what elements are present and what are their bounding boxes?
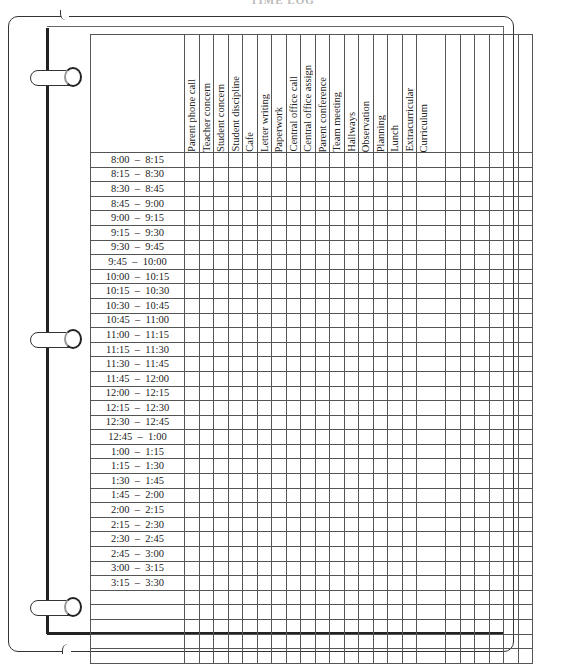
log-cell[interactable] [344,605,359,620]
log-cell[interactable] [460,649,475,664]
log-cell[interactable] [504,313,519,328]
log-cell[interactable] [272,430,287,445]
log-cell[interactable] [504,444,519,459]
log-cell[interactable] [199,298,214,313]
log-cell[interactable] [199,488,214,503]
log-cell[interactable] [344,211,359,226]
log-cell[interactable] [518,488,533,503]
log-cell[interactable] [460,371,475,386]
log-cell[interactable] [518,415,533,430]
log-cell[interactable] [301,444,316,459]
log-cell[interactable] [359,269,374,284]
log-cell[interactable] [373,298,388,313]
log-cell[interactable] [185,284,200,299]
log-cell[interactable] [489,547,504,562]
log-cell[interactable] [257,153,272,168]
log-cell[interactable] [373,474,388,489]
log-cell[interactable] [446,182,461,197]
log-cell[interactable] [446,576,461,591]
log-cell[interactable] [460,284,475,299]
log-cell[interactable] [489,225,504,240]
log-cell[interactable] [417,225,446,240]
log-cell[interactable] [475,211,490,226]
log-cell[interactable] [243,503,258,518]
log-cell[interactable] [257,474,272,489]
log-cell[interactable] [402,459,417,474]
log-cell[interactable] [344,182,359,197]
log-cell[interactable] [286,576,301,591]
log-cell[interactable] [286,649,301,664]
log-cell[interactable] [272,561,287,576]
log-cell[interactable] [504,386,519,401]
log-cell[interactable] [402,401,417,416]
log-cell[interactable] [185,590,200,605]
log-cell[interactable] [446,488,461,503]
log-cell[interactable] [228,196,243,211]
log-cell[interactable] [460,401,475,416]
log-cell[interactable] [373,517,388,532]
log-cell[interactable] [228,401,243,416]
log-cell[interactable] [417,255,446,270]
log-cell[interactable] [344,503,359,518]
log-cell[interactable] [402,357,417,372]
log-cell[interactable] [446,620,461,635]
log-cell[interactable] [228,182,243,197]
log-cell[interactable] [286,167,301,182]
log-cell[interactable] [359,634,374,649]
log-cell[interactable] [199,284,214,299]
log-cell[interactable] [460,503,475,518]
log-cell[interactable] [301,605,316,620]
log-cell[interactable] [388,357,403,372]
log-cell[interactable] [330,371,345,386]
log-cell[interactable] [257,430,272,445]
log-cell[interactable] [243,240,258,255]
log-cell[interactable] [402,211,417,226]
log-cell[interactable] [199,459,214,474]
log-cell[interactable] [344,298,359,313]
log-cell[interactable] [373,634,388,649]
log-cell[interactable] [272,474,287,489]
log-cell[interactable] [504,415,519,430]
log-cell[interactable] [504,342,519,357]
log-cell[interactable] [185,240,200,255]
log-cell[interactable] [460,430,475,445]
log-cell[interactable] [344,401,359,416]
log-cell[interactable] [257,503,272,518]
log-cell[interactable] [243,444,258,459]
log-cell[interactable] [272,517,287,532]
log-cell[interactable] [475,386,490,401]
log-cell[interactable] [359,196,374,211]
log-cell[interactable] [272,605,287,620]
log-cell[interactable] [359,547,374,562]
log-cell[interactable] [257,561,272,576]
log-cell[interactable] [185,167,200,182]
log-cell[interactable] [243,517,258,532]
log-cell[interactable] [373,576,388,591]
log-cell[interactable] [359,576,374,591]
log-cell[interactable] [257,620,272,635]
log-cell[interactable] [504,576,519,591]
log-cell[interactable] [504,590,519,605]
log-cell[interactable] [286,620,301,635]
log-cell[interactable] [315,371,330,386]
log-cell[interactable] [388,503,403,518]
log-cell[interactable] [475,167,490,182]
log-cell[interactable] [417,313,446,328]
log-cell[interactable] [185,547,200,562]
log-cell[interactable] [315,269,330,284]
log-cell[interactable] [243,328,258,343]
log-cell[interactable] [315,196,330,211]
log-cell[interactable] [199,182,214,197]
log-cell[interactable] [243,269,258,284]
log-cell[interactable] [214,153,229,168]
log-cell[interactable] [301,182,316,197]
log-cell[interactable] [286,225,301,240]
log-cell[interactable] [460,357,475,372]
log-cell[interactable] [272,284,287,299]
log-cell[interactable] [330,401,345,416]
log-cell[interactable] [475,488,490,503]
log-cell[interactable] [373,503,388,518]
log-cell[interactable] [417,430,446,445]
log-cell[interactable] [475,474,490,489]
log-cell[interactable] [402,503,417,518]
